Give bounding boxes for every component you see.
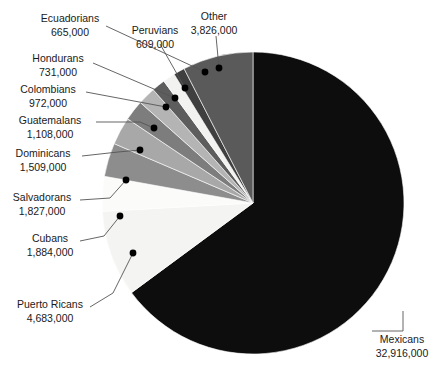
label-cubans-value: 1,884,000	[27, 246, 74, 258]
label-salvadorans-value: 1,827,000	[19, 205, 66, 217]
marker-dot-puerto-ricans	[130, 250, 137, 257]
label-mexicans-value: 32,916,000	[376, 347, 429, 359]
label-hondurans-value: 731,000	[39, 66, 77, 78]
leader-line-mexicans	[372, 311, 403, 331]
label-guatemalans-name: Guatemalans	[19, 114, 81, 126]
marker-dot-guatemalans	[151, 125, 158, 132]
marker-dot-cubans	[117, 213, 124, 220]
label-cubans-name: Cubans	[32, 232, 68, 244]
pie-chart-figure: Ecuadorians 665,000 Peruvians 609,000 Ot…	[0, 0, 440, 372]
pie-chart-svg: Ecuadorians 665,000 Peruvians 609,000 Ot…	[0, 0, 440, 372]
marker-dot-peruvians	[182, 85, 189, 92]
marker-dot-hondurans	[172, 95, 179, 102]
label-hondurans-name: Hondurans	[32, 52, 83, 64]
label-other-name: Other	[201, 10, 228, 22]
label-mexicans-name: Mexicans	[380, 333, 424, 345]
label-puerto-ricans-name: Puerto Ricans	[17, 298, 83, 310]
label-ecuadorians-value: 665,000	[51, 26, 89, 38]
label-colombians-value: 972,000	[29, 97, 67, 109]
label-peruvians-value: 609,000	[136, 38, 174, 50]
marker-dot-other	[216, 65, 223, 72]
label-salvadorans-name: Salvadorans	[13, 191, 71, 203]
label-dominicans-name: Dominicans	[16, 147, 71, 159]
label-ecuadorians-name: Ecuadorians	[41, 12, 99, 24]
pie-slices-group	[102, 52, 404, 354]
label-dominicans-value: 1,509,000	[20, 161, 67, 173]
label-peruvians-name: Peruvians	[132, 24, 179, 36]
marker-dot-ecuadorians	[202, 69, 209, 76]
leader-line-hondurans	[93, 63, 175, 98]
label-puerto-ricans-value: 4,683,000	[27, 312, 74, 324]
marker-dot-colombians	[163, 104, 170, 111]
marker-dot-dominicans	[137, 147, 144, 154]
label-colombians-name: Colombians	[20, 83, 75, 95]
marker-dot-salvadorans	[123, 177, 130, 184]
label-other-value: 3,826,000	[191, 24, 238, 36]
label-guatemalans-value: 1,108,000	[27, 128, 74, 140]
